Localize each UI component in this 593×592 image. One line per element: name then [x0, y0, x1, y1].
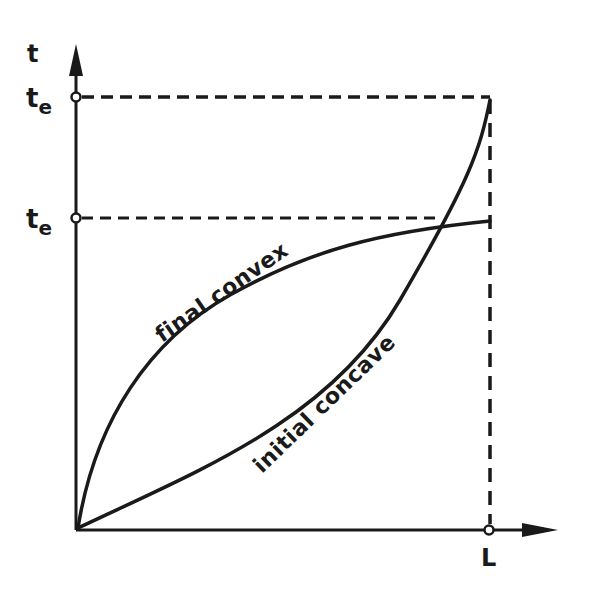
y-axis-arrow-icon [69, 44, 83, 76]
initial-concave-label: initial concave [248, 329, 400, 477]
diagram-canvas: t te te L final convex initial concave [0, 0, 593, 592]
final-convex-curve [78, 221, 490, 528]
lower-te-label: te [26, 204, 52, 240]
upper-te-label: te [26, 83, 52, 119]
x-axis-arrow-icon [522, 523, 558, 537]
upper-te-marker [72, 93, 81, 102]
final-convex-label: final convex [151, 237, 293, 347]
l-marker [485, 526, 494, 535]
initial-concave-curve [78, 100, 490, 528]
y-axis-label: t [27, 40, 38, 68]
lower-te-marker [72, 214, 81, 223]
x-tick-label-l: L [481, 544, 496, 572]
